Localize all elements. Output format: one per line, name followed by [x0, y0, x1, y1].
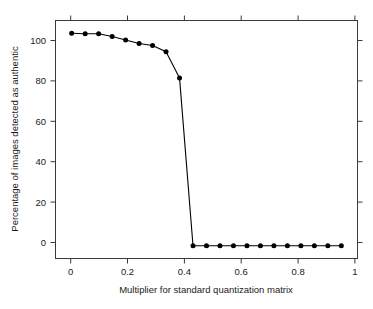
data-point — [312, 243, 317, 248]
data-point — [69, 31, 74, 36]
y-tick-label-0: 0 — [41, 237, 46, 248]
data-point — [83, 31, 88, 36]
data-point — [339, 243, 344, 248]
y-tick-label-60: 60 — [35, 116, 46, 127]
x-tick-label-0: 0 — [68, 266, 73, 277]
x-tick-label-0.6: 0.6 — [235, 266, 248, 277]
data-point — [164, 49, 169, 54]
data-point — [217, 243, 222, 248]
data-point — [150, 43, 155, 48]
data-point — [177, 75, 182, 80]
data-point — [231, 243, 236, 248]
y-axis-title: Percentage of images detected as authent… — [9, 46, 20, 232]
y-tick-label-80: 80 — [35, 75, 46, 86]
y-tick-label-100: 100 — [30, 35, 46, 46]
data-point — [285, 243, 290, 248]
data-point — [110, 34, 115, 39]
data-point — [298, 243, 303, 248]
x-axis-title: Multiplier for standard quantization mat… — [119, 284, 293, 295]
x-tick-label-0.2: 0.2 — [121, 266, 134, 277]
data-point — [137, 41, 142, 46]
data-point — [123, 38, 128, 43]
data-point — [271, 243, 276, 248]
y-tick-label-20: 20 — [35, 197, 46, 208]
x-tick-label-1: 1 — [352, 266, 357, 277]
data-point — [204, 243, 209, 248]
data-point — [258, 243, 263, 248]
chart-figure: 100 80 60 40 20 0 — [0, 0, 373, 309]
data-point — [244, 243, 249, 248]
data-point — [96, 31, 101, 36]
x-tick-label-0.4: 0.4 — [178, 266, 191, 277]
line-chart: 100 80 60 40 20 0 — [0, 0, 373, 309]
data-point — [325, 243, 330, 248]
x-tick-label-0.8: 0.8 — [291, 266, 304, 277]
y-tick-label-40: 40 — [35, 156, 46, 167]
data-point — [191, 243, 196, 248]
